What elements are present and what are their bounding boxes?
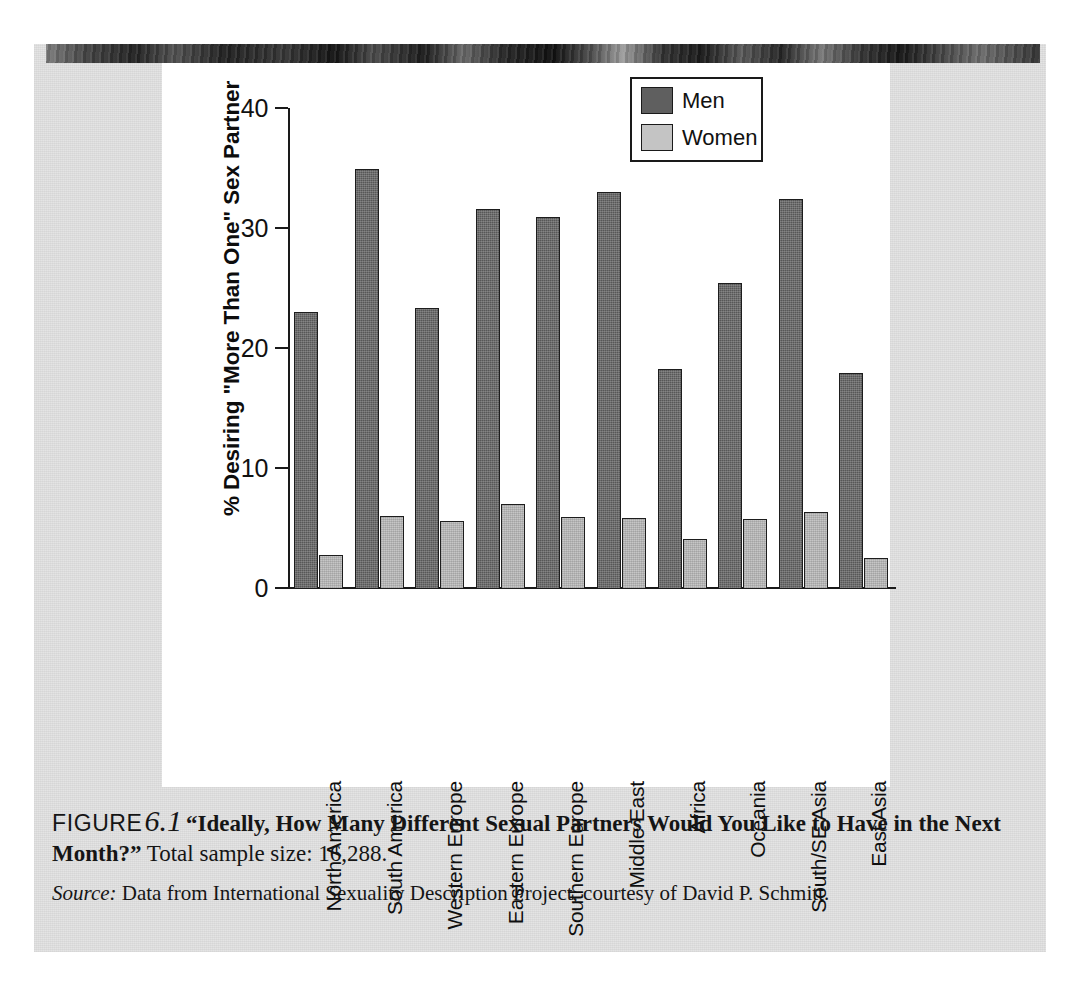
bar-men [718,283,742,589]
bar-men [415,308,439,589]
bar-group [536,63,597,589]
figure-source-line: Source: Data from International Sexualit… [52,880,1027,907]
source-label: Source: [52,881,117,905]
bar-men [597,192,621,589]
bar-group [415,63,476,589]
bar-men [294,312,318,589]
figure-word: FIGURE [52,810,143,836]
bar-group [476,63,537,589]
bar-group [355,63,416,589]
y-axis-title: % Desiring "More Than One" Sex Partner [219,116,245,516]
y-tick-label-0: 0 [192,574,268,603]
bar-group [597,63,658,589]
plot-area: 010203040 % Desiring "More Than One" Sex… [162,63,890,787]
bar-group [658,63,719,589]
bar-series-container [290,63,896,589]
y-tick-10 [275,467,288,469]
bar-men [779,199,803,589]
figure-number: 6.1 [143,804,187,837]
bar-men [658,369,682,589]
bar-group [839,63,900,589]
figure-page: 010203040 % Desiring "More Than One" Sex… [0,0,1082,988]
bar-men [839,373,863,589]
y-tick-40 [275,107,288,109]
bar-women [743,519,767,589]
figure-caption: FIGURE6.1“Ideally, How Many Different Se… [52,806,1027,907]
caption-rest-text: Total sample size: 16,288. [141,841,387,866]
bar-men [536,217,560,589]
y-tick-0 [275,587,288,589]
caption-main-line: FIGURE6.1“Ideally, How Many Different Se… [52,806,1027,869]
x-axis-category-labels: North AmericaSouth AmericaWestern Europe… [290,593,896,783]
bar-women [501,504,525,589]
bar-women [683,539,707,589]
bar-women [380,516,404,589]
scan-artifact-band [46,44,1040,63]
y-tick-30 [275,227,288,229]
chart-panel: 010203040 % Desiring "More Than One" Sex… [162,63,890,787]
bar-group [294,63,355,589]
bar-women [622,518,646,589]
y-tick-20 [275,347,288,349]
bar-women [864,558,888,589]
bar-men [355,169,379,589]
bar-men [476,209,500,589]
bar-women [440,521,464,589]
bar-women [804,512,828,589]
source-text: Data from International Sexuality Descri… [117,881,830,905]
bar-group [718,63,779,589]
bar-group [779,63,840,589]
bar-women [319,555,343,589]
bar-women [561,517,585,589]
